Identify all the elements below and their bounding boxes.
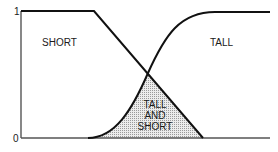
overlap-label-line3: SHORT xyxy=(135,121,175,132)
overlap-label: TALL AND SHORT xyxy=(135,99,175,132)
overlap-label-line1: TALL xyxy=(135,99,175,110)
fuzzy-membership-diagram: 1 0 SHORT TALL TALL AND SHORT xyxy=(0,0,278,152)
y-tick-1: 1 xyxy=(14,6,20,17)
y-tick-0: 0 xyxy=(13,133,19,144)
tall-label: TALL xyxy=(210,37,233,48)
short-label: SHORT xyxy=(42,37,77,48)
overlap-label-line2: AND xyxy=(135,110,175,121)
